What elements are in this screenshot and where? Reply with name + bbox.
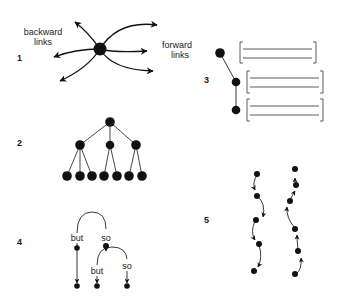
panel-number-4: 4: [17, 237, 22, 247]
chain-upward: [287, 178, 301, 274]
block-node: [232, 106, 241, 115]
chain-node: [295, 248, 301, 254]
panel-1: 1 backward links forward links: [17, 22, 192, 81]
forward-links-label-line2: links: [171, 50, 190, 60]
backward-links-label-line1: backward: [24, 27, 63, 37]
arc-but-so-top: [77, 212, 106, 233]
text-block-3: [247, 99, 323, 121]
connective-node: [103, 243, 109, 249]
panel-number-3: 3: [204, 75, 209, 85]
forward-arrow-mid: [100, 49, 147, 52]
tree-leaf-node: [99, 171, 109, 181]
connective-but-top: but: [71, 233, 84, 243]
text-block-2: [247, 71, 323, 93]
node-link: [220, 53, 236, 82]
panel-3: 3: [204, 42, 323, 121]
forward-links-label-line1: forward: [162, 40, 192, 50]
panel-2: 2: [17, 117, 147, 181]
diagram-canvas: 1 backward links forward links 2: [0, 0, 338, 303]
backward-links-label-line2: links: [34, 37, 53, 47]
chain-node: [292, 226, 298, 232]
tree-leaf-node: [62, 171, 72, 181]
tree-root-node: [105, 117, 115, 127]
connective-node: [74, 283, 80, 289]
block-node: [215, 48, 225, 58]
chain-node: [292, 166, 298, 172]
chain-node: [251, 268, 257, 274]
connective-so-top: so: [101, 233, 111, 243]
tree-leaf-node: [112, 171, 122, 181]
text-block-1: [240, 42, 316, 63]
connective-node: [74, 245, 80, 251]
chain-node: [287, 198, 293, 204]
tree-child-node: [131, 140, 141, 150]
panel-number-5: 5: [204, 215, 209, 225]
tree-child-node: [106, 141, 115, 150]
tree-leaf-node: [124, 171, 134, 181]
connective-node: [94, 283, 100, 289]
block-node: [232, 78, 241, 87]
connective-so-bottom: so: [122, 261, 132, 271]
tree-child-node: [75, 140, 85, 150]
chain-node: [292, 271, 298, 277]
panel-number-2: 2: [17, 138, 22, 148]
panel-4: 4 but so but so: [17, 212, 132, 289]
chain-node: [256, 241, 262, 247]
chain-node: [253, 217, 259, 223]
chain-node: [254, 193, 260, 199]
connective-node: [124, 283, 130, 289]
tree-leaf-node: [75, 171, 85, 181]
chain-node: [254, 171, 260, 177]
connective-but-bottom: but: [91, 266, 104, 276]
chain-node: [293, 182, 299, 188]
panel-5: 5: [204, 166, 301, 277]
forward-arrow-up: [100, 24, 157, 49]
central-node: [94, 43, 107, 56]
panel-number-1: 1: [17, 53, 22, 63]
tree-leaf-node: [137, 171, 147, 181]
backward-arrow-left: [54, 49, 100, 57]
tree-leaf-node: [87, 171, 97, 181]
